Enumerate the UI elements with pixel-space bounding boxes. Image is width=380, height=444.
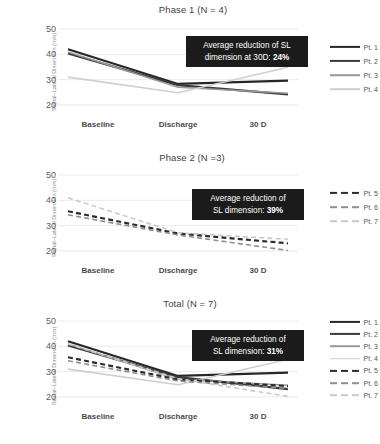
y-tick-label: 40 <box>30 341 56 351</box>
legend-label: Pt. 5 <box>360 190 378 197</box>
callout-value: 24% <box>273 53 289 62</box>
x-tick-label: Baseline <box>58 120 138 129</box>
x-axis-ticks: BaselineDischarge30 D <box>58 412 298 421</box>
legend-item[interactable]: Pt. 5 <box>330 186 378 200</box>
legend-item[interactable]: Pt. 3 <box>330 68 378 82</box>
legend-line-icon <box>330 70 360 80</box>
legend-item[interactable]: Pt. 1 <box>330 40 378 54</box>
legend-item[interactable]: Pt. 1 <box>330 316 378 328</box>
legend-line-icon <box>330 216 360 226</box>
legend-line-icon <box>330 56 360 66</box>
legend-line-icon <box>330 84 360 94</box>
legend-label: Pt. 3 <box>360 72 378 79</box>
legend-line-icon <box>330 317 360 327</box>
legend-label: Pt. 7 <box>360 392 378 399</box>
legend-item[interactable]: Pt. 2 <box>330 328 378 340</box>
y-tick-label: 30 <box>30 221 56 231</box>
y-tick-label: 50 <box>30 170 56 180</box>
callout-line-1: Average reduction of <box>198 193 298 205</box>
y-axis-ticks: 50403020 <box>26 24 56 110</box>
y-tick-label: 40 <box>30 49 56 59</box>
chart-title: Phase 2 (N =3) <box>0 152 380 163</box>
y-tick-label: 40 <box>30 195 56 205</box>
legend-label: Pt. 2 <box>360 58 378 65</box>
legend-line-icon <box>330 329 360 339</box>
legend-label: Pt. 4 <box>360 86 378 93</box>
chart-title: Phase 1 (N = 4) <box>0 4 380 15</box>
legend-line-icon <box>330 188 360 198</box>
x-tick-label: 30 D <box>218 266 298 275</box>
chart-panel-phase-1: Phase 1 (N = 4) Septal–Lateral Dimension… <box>0 0 380 148</box>
legend-item[interactable]: Pt. 4 <box>330 353 378 365</box>
legend-label: Pt. 7 <box>360 218 378 225</box>
y-tick-label: 20 <box>30 392 56 402</box>
x-tick-label: 30 D <box>218 120 298 129</box>
callout-label: SL dimension: <box>213 206 267 215</box>
legend: Pt. 1Pt. 2Pt. 3Pt. 4 <box>330 40 378 96</box>
legend-line-icon <box>330 341 360 351</box>
y-tick-label: 50 <box>30 316 56 326</box>
legend-line-icon <box>330 366 360 376</box>
legend-label: Pt. 3 <box>360 343 378 350</box>
annotation-callout: Average reduction of SL dimension: 31% <box>192 330 304 361</box>
y-tick-label: 30 <box>30 75 56 85</box>
legend-label: Pt. 4 <box>360 355 378 362</box>
x-axis-ticks: BaselineDischarge30 D <box>58 266 298 275</box>
legend-label: Pt. 6 <box>360 380 378 387</box>
legend-item[interactable]: Pt. 7 <box>330 214 378 228</box>
callout-value: 31% <box>267 347 283 356</box>
chart-panel-total: Total (N = 7) Septal–Lateral Dimension (… <box>0 294 380 444</box>
x-tick-label: 30 D <box>218 412 298 421</box>
y-tick-label: 50 <box>30 24 56 34</box>
legend-item[interactable]: Pt. 5 <box>330 365 378 377</box>
annotation-callout: Average reduction of SL dimension at 30D… <box>186 36 308 67</box>
callout-line-1: Average reduction of <box>198 334 298 346</box>
x-tick-label: Discharge <box>138 120 218 129</box>
callout-line-2: SL dimension: 39% <box>198 205 298 217</box>
x-tick-label: Baseline <box>58 412 138 421</box>
callout-label: dimension at 30D: <box>205 53 273 62</box>
legend-label: Pt. 1 <box>360 319 378 326</box>
legend-item[interactable]: Pt. 4 <box>330 82 378 96</box>
x-axis-ticks: BaselineDischarge30 D <box>58 120 298 129</box>
legend-line-icon <box>330 42 360 52</box>
legend-item[interactable]: Pt. 3 <box>330 340 378 352</box>
callout-line-1: Average reduction of SL <box>192 40 302 52</box>
legend-item[interactable]: Pt. 7 <box>330 389 378 401</box>
legend-item[interactable]: Pt. 6 <box>330 377 378 389</box>
chart-panel-phase-2: Phase 2 (N =3) Septal–Lateral Dimension … <box>0 148 380 294</box>
x-tick-label: Discharge <box>138 412 218 421</box>
legend-line-icon <box>330 354 360 364</box>
callout-value: 39% <box>267 206 283 215</box>
x-tick-label: Baseline <box>58 266 138 275</box>
legend: Pt. 5Pt. 6Pt. 7 <box>330 186 378 228</box>
y-axis-ticks: 50403020 <box>26 316 56 402</box>
legend-line-icon <box>330 390 360 400</box>
legend-label: Pt. 1 <box>360 44 378 51</box>
legend-label: Pt. 6 <box>360 204 378 211</box>
chart-title: Total (N = 7) <box>0 298 380 309</box>
x-tick-label: Discharge <box>138 266 218 275</box>
y-axis-ticks: 50403020 <box>26 170 56 256</box>
legend-label: Pt. 5 <box>360 367 378 374</box>
legend-label: Pt. 2 <box>360 331 378 338</box>
y-tick-label: 20 <box>30 100 56 110</box>
annotation-callout: Average reduction of SL dimension: 39% <box>192 189 304 220</box>
callout-line-2: dimension at 30D: 24% <box>192 52 302 64</box>
legend-item[interactable]: Pt. 6 <box>330 200 378 214</box>
legend: Pt. 1Pt. 2Pt. 3Pt. 4Pt. 5Pt. 6Pt. 7 <box>330 316 378 401</box>
legend-line-icon <box>330 378 360 388</box>
y-tick-label: 20 <box>30 246 56 256</box>
callout-line-2: SL dimension: 31% <box>198 346 298 358</box>
y-tick-label: 30 <box>30 367 56 377</box>
legend-line-icon <box>330 202 360 212</box>
legend-item[interactable]: Pt. 2 <box>330 54 378 68</box>
callout-label: SL dimension: <box>213 347 267 356</box>
